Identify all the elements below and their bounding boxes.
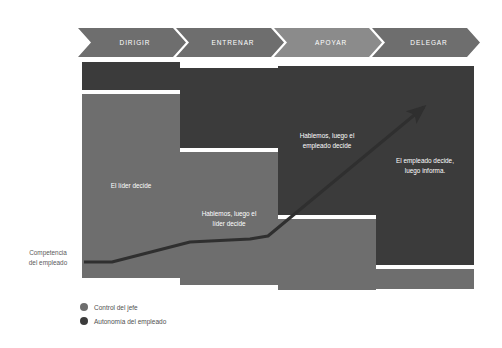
bar-segment-label: El empleado decide, luego informa.	[390, 156, 460, 175]
bar-segment-control[interactable]	[278, 219, 376, 290]
legend-item-label: Autonomía del empleado	[94, 318, 166, 325]
bar-segment-autonomy[interactable]	[180, 68, 278, 148]
legend-item-control-del-jefe[interactable]: Control del jefe	[80, 300, 166, 314]
legend-swatch-icon	[80, 303, 88, 311]
bar-segment-label: Hablemos, luego el líder decide	[196, 209, 263, 228]
bar-segment-label: El líder decide	[105, 181, 158, 191]
bar-segment-label: Hablemos, luego el empleado decide	[294, 131, 361, 150]
infographic-canvas: DIRIGIR ENTRENAR APOYAR DELEGAR El líder…	[0, 0, 502, 348]
legend: Control del jefe Autonomía del empleado	[80, 300, 166, 328]
competence-axis-caption: Competencia del empleado	[12, 248, 84, 267]
bar-segment-autonomy[interactable]	[82, 62, 180, 90]
legend-item-autonomia-del-empleado[interactable]: Autonomía del empleado	[80, 314, 166, 328]
stacked-bar-area: El líder decide Hablemos, luego el líder…	[0, 0, 502, 348]
legend-item-label: Control del jefe	[94, 304, 138, 311]
bar-segment-control[interactable]: El líder decide	[82, 94, 180, 278]
bar-segment-autonomy[interactable]: El empleado decide, luego informa.	[376, 66, 474, 265]
bar-segment-autonomy[interactable]: Hablemos, luego el empleado decide	[278, 66, 376, 215]
legend-swatch-icon	[80, 317, 88, 325]
bar-segment-control[interactable]	[376, 269, 474, 289]
bar-segment-control[interactable]: Hablemos, luego el líder decide	[180, 152, 278, 285]
